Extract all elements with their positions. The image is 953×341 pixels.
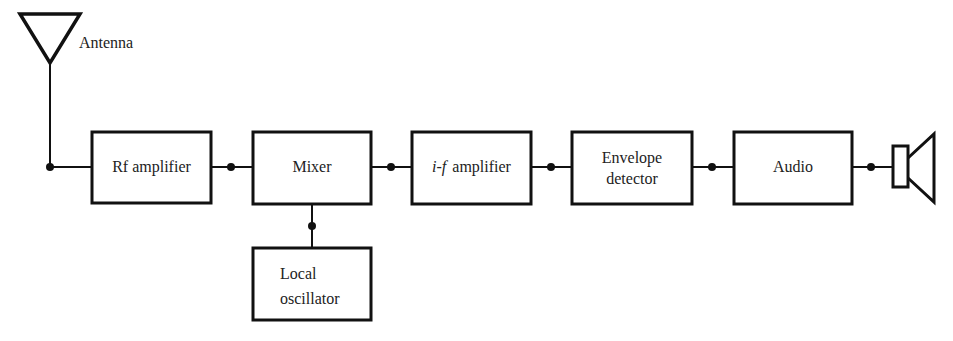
junction-dot [46,163,54,171]
junction-dot [547,163,555,171]
block-label-line1: Envelope [602,149,662,167]
block-rf-amplifier: Rf amplifier [92,132,211,203]
superheterodyne-block-diagram: Antenna Rf amplifier Mixer i-famplifier [0,0,953,341]
block-envelope-detector: Envelope detector [572,132,692,204]
block-label-main: amplifier [452,158,511,176]
block-mixer: Mixer [253,132,371,204]
junction-dot [387,163,395,171]
junction-dot [308,222,316,230]
junction-dot [227,163,235,171]
speaker-icon [893,134,934,202]
junction-dot [708,163,716,171]
block-label-line1: Local [280,265,317,282]
junction-dot [867,163,875,171]
block-audio: Audio [734,132,852,204]
block-local-oscillator: Local oscillator [253,248,371,320]
block-label: Audio [773,158,813,175]
block-label: i-famplifier [432,158,512,176]
block-if-amplifier: i-famplifier [412,132,531,204]
antenna-icon [20,14,80,63]
block-label: Mixer [292,158,332,175]
antenna-label: Antenna [79,34,133,51]
block-label: Rf amplifier [112,158,191,176]
block-label-line2: detector [606,170,658,187]
block-label-line2: oscillator [280,290,340,307]
